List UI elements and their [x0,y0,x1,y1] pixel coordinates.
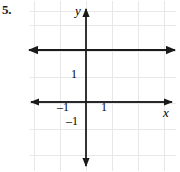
y-axis-label: y [75,3,81,19]
x-axis-tick-label-one: 1 [101,100,107,115]
axes-and-graph [0,0,180,172]
x-axis-tick-label-negative-one: –1 [57,100,69,115]
y-axis-tick-label-one: 1 [71,67,77,82]
coordinate-plane-figure: 5. y x 1 –1 1 [0,0,180,172]
y-axis-tick-label-negative-one: –1 [66,114,78,129]
x-axis-label: x [163,105,169,121]
